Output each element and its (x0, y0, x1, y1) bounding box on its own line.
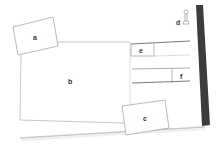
diagram-canvas: b a e f c d (0, 0, 220, 151)
box-f: f (132, 68, 190, 83)
page-bottom-edge (20, 127, 205, 138)
box-d-label: d (176, 19, 180, 26)
box-f-label: f (180, 73, 183, 80)
box-e: e (131, 41, 190, 56)
box-e-label: e (139, 47, 143, 54)
box-a-label: a (33, 34, 37, 41)
box-b-label: b (68, 78, 72, 85)
box-a: a (13, 17, 58, 55)
box-d: d (176, 10, 189, 26)
binding-strip (196, 5, 210, 126)
box-c-label: c (143, 115, 147, 122)
box-b: b (20, 42, 130, 123)
page-bottom-shadow (22, 129, 205, 140)
pawn-icon (183, 10, 189, 24)
